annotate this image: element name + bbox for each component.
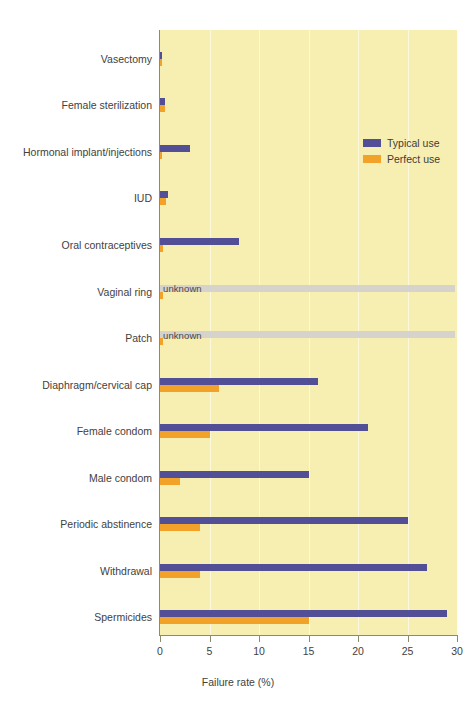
x-axis-tick — [259, 635, 260, 642]
bar-typical-use — [160, 378, 318, 385]
unknown-label: unknown — [163, 329, 202, 340]
bar-typical-use — [160, 238, 239, 245]
legend-label-perfect-use: Perfect use — [387, 153, 440, 165]
bar-perfect-use — [160, 431, 210, 438]
category-label: Spermicides — [0, 611, 152, 623]
bar-typical-use — [160, 564, 427, 571]
x-axis-tick-label: 15 — [303, 645, 315, 657]
category-label: Female sterilization — [0, 99, 152, 111]
x-axis-tick — [160, 635, 161, 642]
bar-perfect-use — [160, 617, 309, 624]
unknown-bar — [160, 285, 455, 292]
category-label: Vaginal ring — [0, 286, 152, 298]
bar-perfect-use — [160, 245, 163, 252]
x-axis-tick-label: 30 — [451, 645, 463, 657]
bar-perfect-use — [160, 198, 166, 205]
category-label: IUD — [0, 192, 152, 204]
unknown-label: unknown — [163, 283, 202, 294]
category-label: Patch — [0, 332, 152, 344]
category-label: Vasectomy — [0, 53, 152, 65]
x-axis-tick-label: 20 — [352, 645, 364, 657]
bar-perfect-use — [160, 292, 163, 299]
bar-perfect-use — [160, 338, 163, 345]
bar-typical-use — [160, 471, 309, 478]
x-axis-tick — [210, 635, 211, 642]
x-axis-tick-label: 10 — [253, 645, 265, 657]
bar-typical-use — [160, 424, 368, 431]
category-label: Male condom — [0, 472, 152, 484]
x-axis-tick — [309, 635, 310, 642]
x-axis-tick-label: 0 — [157, 645, 163, 657]
bar-typical-use — [160, 52, 162, 59]
bar-typical-use — [160, 145, 190, 152]
failure-rate-bar-chart: 051015202530 VasectomyFemale sterilizati… — [0, 0, 476, 719]
chart-legend: Typical use Perfect use — [363, 136, 440, 168]
x-axis-tick-label: 5 — [207, 645, 213, 657]
bar-perfect-use — [160, 105, 165, 112]
category-label: Female condom — [0, 425, 152, 437]
x-axis-tick — [457, 635, 458, 642]
category-label: Periodic abstinence — [0, 518, 152, 530]
x-axis-tick — [408, 635, 409, 642]
legend-swatch-typical-use — [363, 139, 381, 147]
legend-swatch-perfect-use — [363, 155, 381, 163]
bar-typical-use — [160, 517, 408, 524]
bar-perfect-use — [160, 571, 200, 578]
legend-label-typical-use: Typical use — [387, 137, 440, 149]
category-label: Withdrawal — [0, 565, 152, 577]
bar-perfect-use — [160, 59, 162, 66]
bar-typical-use — [160, 98, 165, 105]
bar-perfect-use — [160, 524, 200, 531]
unknown-bar — [160, 331, 455, 338]
category-label: Diaphragm/cervical cap — [0, 379, 152, 391]
x-axis-tick — [358, 635, 359, 642]
bar-typical-use — [160, 610, 447, 617]
bar-perfect-use — [160, 152, 162, 159]
bar-perfect-use — [160, 385, 219, 392]
legend-item-perfect-use: Perfect use — [363, 152, 440, 166]
x-axis-tick-label: 25 — [402, 645, 414, 657]
category-label: Oral contraceptives — [0, 239, 152, 251]
x-axis-title: Failure rate (%) — [0, 676, 476, 688]
legend-item-typical-use: Typical use — [363, 136, 440, 150]
bar-perfect-use — [160, 478, 180, 485]
category-label: Hormonal implant/injections — [0, 146, 152, 158]
bar-typical-use — [160, 191, 168, 198]
